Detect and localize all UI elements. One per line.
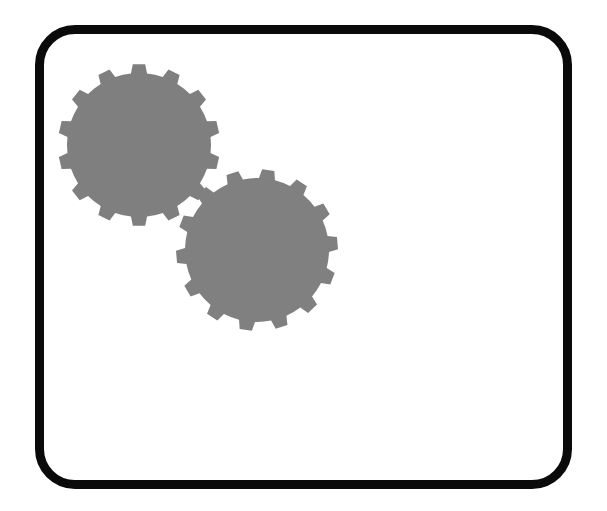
gear-icon [176, 169, 338, 331]
gear-icon [59, 64, 219, 226]
gear-canvas [0, 0, 607, 511]
